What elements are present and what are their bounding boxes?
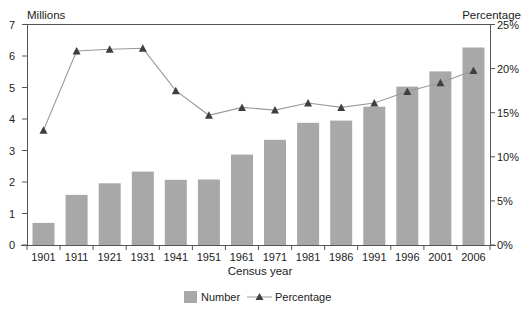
triangle-marker-icon [370,99,378,107]
bar-1991 [363,107,385,245]
left-axis-ticks: 01234567 [9,19,27,252]
bar-1996 [396,87,418,245]
triangle-marker-icon [304,99,312,107]
left-tick-label: 3 [9,145,15,157]
left-tick-label: 1 [9,208,15,220]
bar-1961 [231,155,253,245]
x-tick-label: 1991 [362,251,386,263]
x-tick-label: 1961 [230,251,254,263]
left-tick-label: 5 [9,82,15,94]
bar-2006 [463,48,485,246]
plot-frame [27,24,491,245]
bar-1981 [297,123,319,245]
bar-1971 [264,140,286,245]
legend-label-number: Number [201,291,240,303]
left-tick-label: 2 [9,176,15,188]
triangle-marker-icon [40,126,48,134]
x-tick-label: 1996 [395,251,419,263]
x-tick-label: 1986 [329,251,353,263]
x-tick-label: 1941 [164,251,188,263]
left-axis-title: Millions [27,9,66,21]
legend-swatch-number [184,291,197,303]
bar-1951 [198,180,220,246]
right-tick-label: 20% [497,63,519,75]
right-tick-label: 0% [497,239,513,251]
x-tick-label: 1931 [131,251,155,263]
x-tick-label: 2001 [428,251,452,263]
bar-1931 [132,172,154,245]
bar-2001 [429,71,451,245]
bar-series-number [33,48,485,246]
right-tick-label: 10% [497,151,519,163]
x-tick-label: 1911 [65,251,89,263]
right-tick-label: 5% [497,195,513,207]
x-axis-ticks: 1901191119211931194119511961197119811986… [27,245,490,263]
bar-1911 [66,195,88,245]
right-axis-ticks: 0%5%10%15%20%25% [490,19,519,252]
x-tick-label: 1901 [31,251,55,263]
x-tick-label: 1951 [197,251,221,263]
right-tick-label: 15% [497,107,519,119]
x-tick-label: 1981 [296,251,320,263]
bar-1941 [165,180,187,245]
left-tick-label: 0 [9,239,15,251]
right-tick-label: 25% [497,19,519,31]
left-tick-label: 4 [9,113,15,125]
x-tick-label: 2006 [461,251,485,263]
x-tick-label: 1921 [97,251,121,263]
x-tick-label: 1971 [263,251,287,263]
bar-1986 [330,121,352,245]
legend: Number Percentage [184,291,331,303]
bar-1901 [33,223,55,245]
legend-label-percentage: Percentage [275,291,331,303]
left-tick-label: 7 [9,19,15,31]
chart-figure: Millions Percentage 01234567 0%5%10%15%2… [0,0,530,313]
left-tick-label: 6 [9,50,15,62]
bar-1921 [99,183,121,245]
x-axis-title: Census year [228,265,293,277]
